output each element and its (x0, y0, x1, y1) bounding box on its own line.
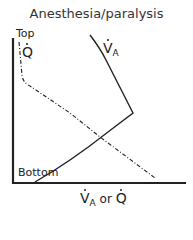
dot-accent (84, 189, 86, 191)
x-label-sub: A (90, 198, 96, 208)
x-label-v-text: V (80, 190, 90, 206)
ventilation-subscript: A (113, 48, 119, 58)
dot-accent (26, 43, 28, 45)
perfusion-label: Q (22, 44, 33, 60)
perfusion-symbol: Q (22, 44, 33, 60)
bottom-label: Bottom (18, 166, 58, 179)
x-label-or: or (96, 192, 116, 206)
x-axis-label: VA or Q (80, 190, 127, 206)
x-label-q-text: Q (116, 190, 127, 206)
dot-accent (120, 189, 122, 191)
perfusion-curve (19, 42, 155, 178)
x-label-q: Q (116, 190, 127, 206)
ventilation-label: VA (103, 40, 119, 56)
dot-accent (107, 39, 109, 41)
top-label: Top (16, 27, 35, 40)
ventilation-symbol: V (103, 40, 113, 56)
x-label-v: V (80, 190, 90, 206)
